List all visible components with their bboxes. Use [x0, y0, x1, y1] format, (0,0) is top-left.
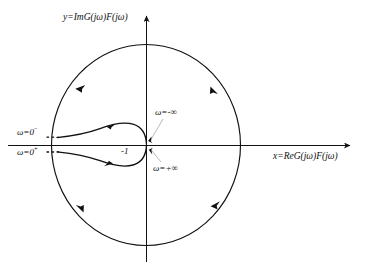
omega-positive-infinity-label: ω=+∞ [153, 164, 178, 173]
omega-zero-plus-label: ω=0+ [17, 146, 38, 157]
omega-zero-minus-base: ω=0 [17, 127, 34, 137]
critical-point-label: -1 [121, 147, 129, 156]
omega-zero-minus-superscript: − [34, 125, 38, 132]
omega-zero-plus-superscript: + [34, 145, 38, 152]
omega-leader-lines [150, 119, 164, 162]
y-axis-label: y=ImG(jω)F(jω) [63, 13, 128, 23]
circle-direction-arrows [75, 83, 220, 213]
omega-negative-infinity-label: ω=-∞ [155, 108, 177, 117]
nyquist-diagram-canvas [0, 0, 367, 268]
dashed-tails [47, 137, 59, 152]
omega-zero-minus-label: ω=0− [17, 126, 38, 137]
omega-zero-plus-base: ω=0 [17, 147, 34, 157]
nyquist-leaf-lower-branch [57, 146, 147, 166]
nyquist-plot-figure: y=ImG(jω)F(jω) x=ReG(jω)F(jω) ω=0− ω=0+ … [0, 0, 367, 268]
x-axis-label: x=ReG(jω)F(jω) [273, 152, 338, 162]
nyquist-leaf-upper-branch [57, 123, 147, 144]
